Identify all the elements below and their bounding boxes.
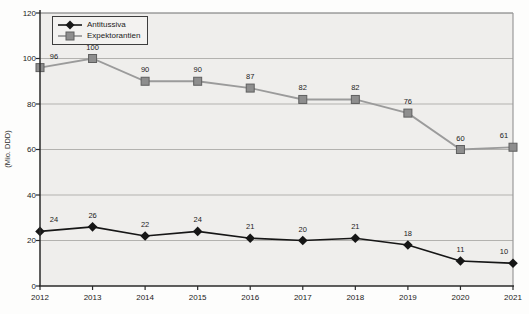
- x-tick-label: 2015: [189, 293, 207, 302]
- diamond-marker-icon: [66, 20, 75, 29]
- chart-svg: 9610090908782827660612426222421202118111…: [0, 0, 529, 314]
- x-tick-label: 2021: [504, 293, 522, 302]
- data-point-marker: [404, 109, 412, 117]
- legend-item-antitussiva: Antitussiva: [57, 19, 140, 30]
- data-point-marker: [509, 143, 517, 151]
- expektorantien-line-marker-icon: [57, 31, 83, 41]
- data-point-marker: [194, 77, 202, 85]
- legend-label-expektorantien: Expektorantien: [87, 31, 140, 41]
- antitussiva-line-marker-icon: [57, 20, 83, 30]
- x-tick-label: 2017: [294, 293, 312, 302]
- x-tick-label: 2019: [399, 293, 417, 302]
- data-label: 11: [457, 245, 465, 254]
- data-label: 24: [193, 215, 201, 224]
- data-point-marker: [299, 95, 307, 103]
- x-tick-label: 2016: [241, 293, 259, 302]
- data-label: 60: [456, 134, 464, 143]
- data-label: 21: [351, 222, 359, 231]
- data-label: 90: [193, 65, 201, 74]
- legend: Antitussiva Expektorantien: [52, 16, 148, 45]
- data-label: 82: [351, 83, 359, 92]
- y-axis-title: (Mio. DDD): [3, 130, 12, 168]
- data-label: 61: [500, 131, 508, 140]
- data-label: 22: [141, 220, 149, 229]
- legend-item-expektorantien: Expektorantien: [57, 30, 140, 41]
- data-label: 76: [404, 97, 412, 106]
- data-label: 24: [50, 215, 58, 224]
- data-label: 26: [88, 211, 96, 220]
- data-label: 96: [50, 52, 58, 61]
- data-label: 90: [141, 65, 149, 74]
- y-tick-label: 20: [27, 236, 36, 245]
- data-label: 20: [299, 225, 307, 234]
- data-label: 82: [299, 83, 307, 92]
- data-label: 87: [246, 72, 254, 81]
- data-point-marker: [246, 84, 254, 92]
- y-tick-label: 120: [23, 9, 37, 18]
- y-tick-label: 0: [32, 282, 37, 291]
- y-tick-label: 80: [27, 100, 36, 109]
- data-label: 18: [404, 229, 412, 238]
- x-tick-label: 2018: [346, 293, 364, 302]
- data-point-marker: [456, 146, 464, 154]
- y-tick-label: 40: [27, 191, 36, 200]
- y-tick-label: 60: [27, 145, 36, 154]
- x-tick-label: 2020: [452, 293, 470, 302]
- data-label: 10: [500, 247, 508, 256]
- data-point-marker: [141, 77, 149, 85]
- data-label: 21: [246, 222, 254, 231]
- square-marker-icon: [66, 32, 74, 40]
- x-tick-label: 2012: [31, 293, 49, 302]
- data-point-marker: [89, 55, 97, 63]
- legend-label-antitussiva: Antitussiva: [87, 20, 126, 30]
- data-point-marker: [351, 95, 359, 103]
- x-tick-label: 2013: [84, 293, 102, 302]
- y-tick-label: 100: [23, 54, 37, 63]
- chart-figure: 9610090908782827660612426222421202118111…: [0, 0, 529, 314]
- x-tick-label: 2014: [136, 293, 154, 302]
